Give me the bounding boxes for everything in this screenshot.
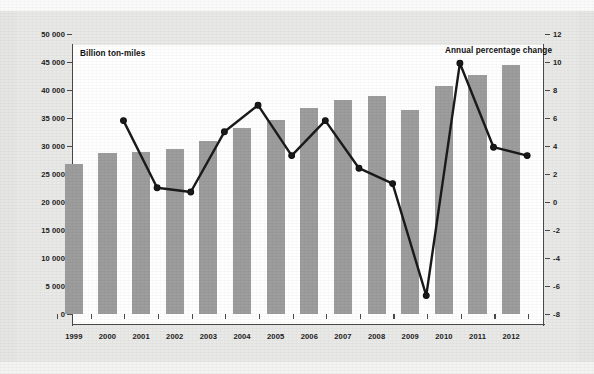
line-series-annual-percentage-change (16, 11, 594, 374)
line-marker (121, 118, 127, 124)
page-top-margin (0, 0, 594, 11)
line-marker (356, 165, 362, 171)
line-marker (524, 153, 530, 159)
line-marker (255, 102, 261, 108)
line-marker (423, 293, 429, 299)
line-marker (491, 144, 497, 150)
line-marker (154, 185, 160, 191)
line-path (123, 63, 527, 295)
line-marker (188, 189, 194, 195)
line-marker (221, 129, 227, 135)
right-series-annotation: Annual percentage change (445, 46, 552, 55)
left-series-annotation: Billion ton-miles (80, 49, 145, 58)
line-marker (322, 118, 328, 124)
line-marker (457, 60, 463, 66)
line-marker (289, 153, 295, 159)
chart-figure: 05 00010 00015 00020 00025 00030 00035 0… (16, 11, 578, 362)
line-marker (390, 181, 396, 187)
